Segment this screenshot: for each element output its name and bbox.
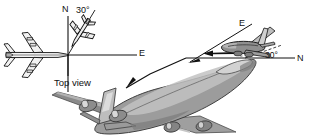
aircraft-heading-figure: N 30° E Top view E N 30° — [0, 0, 318, 139]
perspective-angle-label: 30° — [265, 51, 278, 60]
perspective-east-label: E — [239, 19, 245, 28]
top-view-east-label: E — [139, 49, 145, 58]
small-aircraft-top-view — [61, 11, 101, 53]
large-airliner-perspective — [52, 59, 256, 134]
top-view-angle-label: 30° — [76, 6, 90, 15]
figure-canvas — [0, 0, 318, 139]
top-view-caption: Top view — [54, 78, 91, 88]
perspective-north-label: N — [297, 54, 304, 63]
top-view-north-label: N — [62, 5, 69, 14]
airliner-top-view — [4, 32, 69, 77]
